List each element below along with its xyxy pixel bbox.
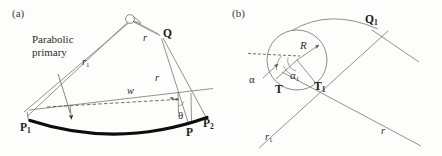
label-w: w [127, 85, 134, 96]
label-r-panel-b: r [381, 125, 385, 136]
secondary-mirror-circle-icon [126, 15, 141, 24]
ray-q-to-p2 [163, 38, 206, 117]
label-r1-sub: 1 [86, 61, 90, 69]
p2-sub: 2 [210, 122, 214, 131]
label-r1-panel-b: r1 [265, 131, 273, 142]
point-label-p1: P1 [20, 121, 31, 133]
annotation-leader-line [58, 74, 70, 113]
panel-b-graphics [248, 19, 421, 148]
w-arrow-right [172, 99, 179, 100]
horizontal-reference-dashed [248, 54, 300, 57]
p1-base: P [20, 121, 27, 133]
point-label-p: P [186, 126, 193, 138]
point-label-t1: T1 [314, 80, 325, 92]
alpha-pointer-arrow-icon [263, 64, 278, 78]
panel-a-tag: (a) [12, 8, 24, 20]
annotation-line-1: Parabolic [32, 33, 74, 45]
annotation-line-2: primary [32, 46, 67, 58]
panel-b-tag: (b) [232, 8, 245, 20]
radius-to-t1 [297, 60, 315, 82]
t1-base: T [314, 80, 322, 92]
label-r-lower: r [155, 72, 159, 83]
point-label-q: Q [163, 27, 172, 39]
label-theta: θ [178, 110, 183, 122]
figure-container: (a) Parabolic primary Q r r1 r w θ P1 P … [0, 0, 442, 156]
theta-angle-arc [178, 101, 184, 106]
label-r1-panel-a: r1 [82, 56, 90, 67]
ray-r-upper [372, 30, 419, 62]
ray-q-to-p [162, 39, 189, 123]
parabolic-primary-annotation: Parabolic primary [32, 33, 74, 59]
ray-r-lower [282, 72, 421, 146]
alpha-angle-arc [276, 56, 281, 70]
point-label-p2: P2 [203, 117, 214, 129]
point-label-t: T [275, 83, 283, 95]
q1-base: Q [365, 13, 374, 25]
vertical-line-p [191, 93, 192, 124]
r1b-sub: 1 [269, 136, 273, 144]
q1-sub: 1 [374, 18, 378, 27]
t1-sub: 1 [322, 85, 326, 94]
aperture-baseline [29, 89, 213, 111]
point-label-q1: Q1 [365, 13, 378, 25]
label-alpha1: α1 [290, 70, 299, 82]
p2-base: P [203, 117, 210, 129]
p1-sub: 1 [27, 126, 31, 135]
label-r-upper: r [143, 32, 147, 43]
label-alpha: α [249, 74, 255, 86]
alpha1-sub: 1 [296, 75, 300, 83]
alpha1-base: α [290, 69, 296, 81]
label-radius-r: R [300, 40, 307, 52]
